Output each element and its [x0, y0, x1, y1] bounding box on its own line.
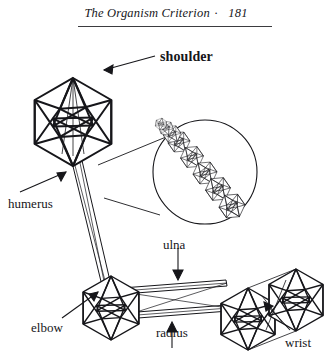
running-head-title: The Organism Criterion	[84, 6, 209, 20]
node-elbow-module	[83, 276, 139, 340]
figure-svg	[0, 30, 332, 360]
book-page: The Organism Criterion·181	[0, 0, 332, 360]
label-wrist: wrist	[285, 336, 311, 349]
running-head-separator: ·	[210, 6, 222, 20]
label-ulna: ulna	[163, 238, 185, 251]
header-rule	[78, 26, 272, 27]
strut-radius	[124, 305, 229, 319]
label-radius: radius	[156, 326, 188, 339]
label-shoulder: shoulder	[160, 50, 213, 64]
node-wrist-module-2	[269, 269, 323, 331]
running-head: The Organism Criterion·181	[0, 6, 332, 21]
figure-tensegrity-arm	[0, 30, 332, 360]
label-elbow: elbow	[31, 321, 63, 334]
node-wrist-module-1	[221, 288, 275, 350]
page-number: 181	[222, 6, 247, 20]
label-humerus: humerus	[8, 197, 53, 210]
